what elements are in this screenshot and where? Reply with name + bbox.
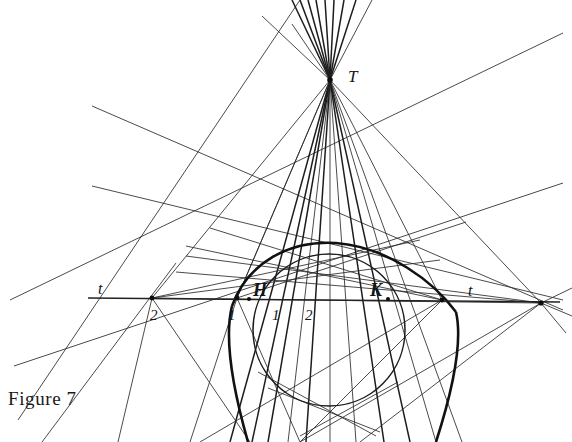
label-tangent-left-t: t — [98, 280, 103, 297]
lower-chord-a — [268, 388, 380, 432]
apex-upper-ray-11 — [292, 24, 330, 80]
construction-line-leftdown-diagonal — [42, 263, 176, 442]
apex-ray-7 — [330, 80, 356, 442]
node-left-inner — [235, 296, 240, 301]
construction-line-right-to-apexfan-2 — [541, 303, 572, 316]
node-conic-right — [386, 297, 390, 301]
pencil-left-outer-c — [152, 260, 440, 298]
construction-line-right-to-apexfan-3 — [541, 303, 566, 333]
label-mark-inner-2: 2 — [305, 307, 313, 323]
figure-7-diagram: T t t 2 1 1 2 H K Figure 7 — [0, 0, 572, 442]
node-right — [440, 298, 445, 303]
node-conic-left — [247, 297, 251, 301]
node-far-right — [538, 300, 543, 305]
construction-line-lowleft-to-upright — [10, 33, 563, 300]
figure-caption: Figure 7 — [8, 388, 77, 410]
node-apex — [327, 77, 333, 83]
label-point-left-outer-2: 2 — [150, 307, 158, 323]
conic-branch-left — [229, 306, 248, 442]
label-conic-point-K: K — [369, 280, 384, 300]
apex-ray-3 — [268, 80, 330, 442]
construction-line-right-lower-diagonal — [300, 303, 541, 442]
apex-ray-10 — [330, 80, 436, 442]
construction-line-right-upper-diagonal — [360, 303, 541, 442]
label-point-left-inner-1: 1 — [228, 307, 236, 323]
pencil-left-inner-b — [237, 298, 300, 442]
apex-ray-8 — [330, 80, 384, 442]
label-tangent-right-t: t — [468, 282, 473, 299]
pencil-left-outer-a — [118, 298, 152, 442]
apex-fan-lines-group — [152, 80, 541, 442]
label-conic-point-H: H — [252, 280, 268, 300]
lower-chord-b — [300, 382, 398, 436]
geometry-canvas: T t t 2 1 1 2 H K — [0, 0, 572, 442]
label-apex-T: T — [348, 67, 359, 86]
construction-line-upper-left-to-right — [92, 106, 563, 310]
label-mark-inner-1: 1 — [272, 307, 280, 323]
node-left-outer — [150, 296, 155, 301]
